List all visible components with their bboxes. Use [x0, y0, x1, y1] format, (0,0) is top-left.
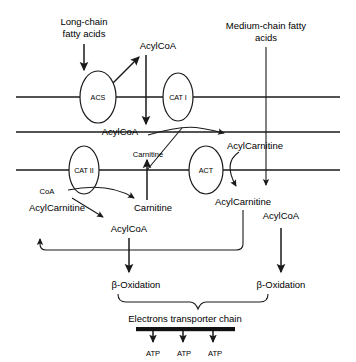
acylcarnitine-through-act-curve — [230, 152, 239, 186]
medium-chain-fatty-acids-label-line1: Medium-chain fatty — [226, 20, 307, 31]
acylcarnitine-matrix-left-label: AcylCarnitine — [29, 202, 85, 213]
atp-label-3: ATP — [208, 349, 222, 358]
atp-label-1: ATP — [146, 349, 160, 358]
cat1-enzyme-label: CAT I — [169, 93, 187, 102]
acylcoa-matrix-left-label: AcylCoA — [111, 223, 148, 234]
acylcoa-top-label: AcylCoA — [140, 40, 177, 51]
long-chain-fatty-acids-label-line2: fatty acids — [63, 28, 106, 39]
acylcoa-matrix-right-label: AcylCoA — [263, 210, 300, 221]
beta-oxidation-left-label: β-Oxidation — [112, 279, 161, 290]
coa-label: CoA — [40, 187, 56, 196]
acylcarnitine-intermembrane-label: AcylCarnitine — [227, 140, 283, 151]
long-chain-fatty-acids-label-line1: Long-chain — [60, 16, 107, 27]
medium-chain-fatty-acids-label-line2: acids — [255, 32, 277, 43]
beta-oxidation-right-label: β-Oxidation — [257, 279, 306, 290]
acylcoa-to-acylcarnitine-curve — [148, 127, 224, 135]
acylcoa-intermembrane-label: AcylCoA — [102, 126, 139, 137]
acylcarnitine-matrix-right-label: AcylCarnitine — [215, 196, 271, 207]
cat2-enzyme-label: CAT II — [74, 166, 94, 175]
atp-label-2: ATP — [177, 349, 191, 358]
pathway-canvas: Long-chain fatty acids AcylCoA Medium-ch… — [0, 0, 356, 362]
act-enzyme-label: ACT — [199, 166, 214, 175]
electron-transport-chain-bar — [136, 327, 235, 331]
carnitine-intermembrane-label: Carnitine — [133, 150, 163, 159]
beta-oxidation-brace — [118, 294, 268, 309]
carnitine-matrix-label: Carnitine — [134, 202, 172, 213]
acs-enzyme-label: ACS — [91, 93, 106, 102]
electron-transport-chain-label: Electrons transporter chain — [128, 313, 242, 324]
pathway-diagram: Long-chain fatty acids AcylCoA Medium-ch… — [0, 0, 356, 362]
